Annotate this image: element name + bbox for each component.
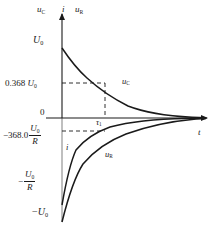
axis-label-i: i [62,5,65,14]
axis-label-ur: uR [75,5,83,15]
curve-label-i: i [66,143,68,152]
axis-label-uc: uC [37,5,45,15]
ytick-label-negu0: −U0 [32,207,48,218]
ytick-label-neg368u0r: −368.0 U0 R [3,124,41,146]
xtick-label-tau1: τ1 [96,118,102,128]
ytick-label-u0: U0 [33,35,43,46]
fraction-neg-u0-over-r: U0 R [24,170,35,192]
figure-container: uC i uR U0 0.368 U0 0 −368.0 U0 R − U0 R… [0,0,221,235]
curve-label-uc: uC [122,77,130,87]
axis-label-t: t [198,128,201,137]
fraction-u0-over-r: U0 R [29,124,40,146]
curve-ur [62,119,206,222]
ytick-label-negu0r: − U0 R [18,170,35,192]
ytick-label-0368u0: 0.368 U0 [5,79,37,89]
curve-label-ur: uR [105,150,113,160]
ytick-label-zero: 0 [40,108,45,117]
